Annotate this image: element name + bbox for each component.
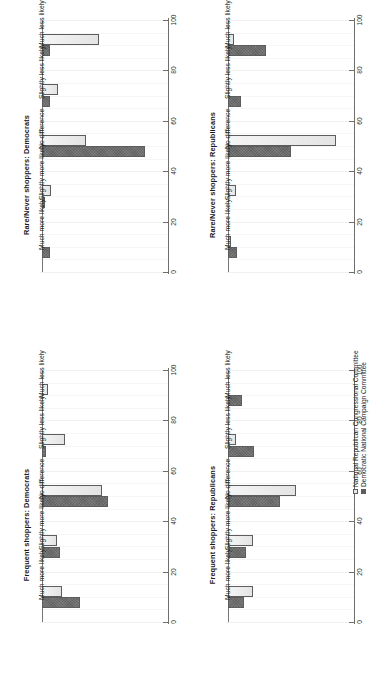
axis-tick — [349, 572, 354, 573]
gridline — [40, 159, 168, 160]
gridline — [40, 521, 168, 522]
axis-tick — [163, 121, 168, 122]
gridline — [226, 247, 354, 248]
axis-tick-label: 80 — [356, 67, 363, 74]
gridline — [40, 458, 168, 459]
gridline — [226, 622, 354, 623]
gridline — [226, 458, 354, 459]
axis-tick-label: 100 — [170, 14, 177, 25]
panel-bottom-right: 020406080100Frequent shoppers: Republica… — [186, 350, 372, 700]
category-label: Slightly less likely — [224, 396, 231, 449]
legend: National Republican Congressional Commit… — [352, 494, 372, 514]
gridline — [40, 383, 168, 384]
category-label: Slightly less likely — [224, 46, 231, 99]
axis-tick-label: 0 — [170, 620, 177, 624]
axis-tick — [349, 622, 354, 623]
value-axis-line — [168, 18, 169, 274]
axis-tick-label: 20 — [356, 568, 363, 575]
figure-multi-panel-bar-chart: 020406080100Rare/Never shoppers: Democra… — [0, 0, 372, 700]
axis-tick — [163, 572, 168, 573]
gridline — [226, 234, 354, 235]
gridline — [226, 159, 354, 160]
bar — [42, 496, 108, 507]
axis-tick-label: 20 — [170, 218, 177, 225]
category-label: Slightly more likely — [224, 493, 231, 549]
axis-tick — [163, 622, 168, 623]
gridline — [40, 420, 168, 421]
gridline — [40, 209, 168, 210]
axis-tick — [349, 70, 354, 71]
bar — [42, 135, 86, 146]
legend-swatch-light — [353, 489, 358, 494]
gridline — [40, 622, 168, 623]
gridline — [40, 395, 168, 396]
gridline — [226, 58, 354, 59]
legend-swatch-dark — [361, 489, 366, 494]
gridline — [226, 70, 354, 71]
category-label: Much more likely — [224, 549, 231, 600]
gridline — [226, 509, 354, 510]
axis-tick — [163, 471, 168, 472]
gridline — [226, 96, 354, 97]
bar — [228, 446, 254, 457]
axis-tick-label: 40 — [170, 518, 177, 525]
panel-top-left: 020406080100Rare/Never shoppers: Democra… — [0, 0, 186, 350]
panel-title: Rare/Never shoppers: Republicans — [206, 0, 220, 350]
gridline — [226, 420, 354, 421]
gridline — [226, 609, 354, 610]
gridline — [40, 96, 168, 97]
gridline — [226, 184, 354, 185]
gridline — [40, 272, 168, 273]
axis-tick-label: 0 — [356, 270, 363, 274]
gridline — [40, 572, 168, 573]
bar — [228, 586, 253, 597]
axis-tick — [163, 521, 168, 522]
axis-tick — [349, 121, 354, 122]
gridline — [226, 521, 354, 522]
gridline — [40, 370, 168, 371]
axis-tick-label: 0 — [170, 270, 177, 274]
panel-top-right: 020406080100Rare/Never shoppers: Republi… — [186, 0, 372, 350]
value-axis-line — [168, 368, 169, 624]
category-label: Much more likely — [38, 199, 45, 250]
gridline — [40, 609, 168, 610]
axis-tick — [163, 420, 168, 421]
legend-label: Democratic National Campaign Committee — [360, 362, 367, 487]
category-label: Slightly less likely — [38, 46, 45, 99]
gridline — [226, 572, 354, 573]
category-label: Much less likely — [224, 351, 231, 399]
gridline — [40, 222, 168, 223]
panel-title: Frequent shoppers: Republicans — [206, 350, 220, 700]
gridline — [40, 247, 168, 248]
gridline — [226, 83, 354, 84]
gridline — [40, 20, 168, 21]
value-axis-line — [354, 18, 355, 274]
axis-tick — [163, 70, 168, 71]
gridline — [40, 70, 168, 71]
gridline — [40, 121, 168, 122]
gridline — [40, 45, 168, 46]
axis-tick-label: 80 — [170, 67, 177, 74]
gridline — [226, 370, 354, 371]
bar — [228, 485, 296, 496]
axis-tick — [163, 20, 168, 21]
gridline — [40, 196, 168, 197]
gridline — [226, 559, 354, 560]
gridline — [40, 108, 168, 109]
axis-tick — [349, 521, 354, 522]
gridline — [40, 509, 168, 510]
axis-tick-label: 20 — [170, 568, 177, 575]
category-label: Much less likely — [38, 351, 45, 399]
axis-tick — [349, 222, 354, 223]
gridline — [226, 121, 354, 122]
bar — [42, 586, 62, 597]
gridline — [226, 33, 354, 34]
gridline — [40, 446, 168, 447]
category-label: Much more likely — [38, 549, 45, 600]
category-label: Slightly more likely — [38, 493, 45, 549]
axis-tick-label: 40 — [356, 518, 363, 525]
axis-tick — [349, 171, 354, 172]
bar — [228, 535, 253, 546]
gridline — [40, 83, 168, 84]
gridline — [226, 408, 354, 409]
